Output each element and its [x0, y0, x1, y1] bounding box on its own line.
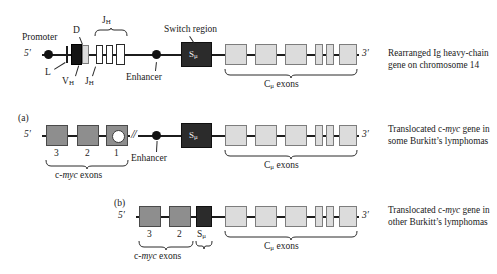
promoter-label: Promoter	[22, 33, 57, 43]
cmyc-exons-label-b: c-myc exons	[134, 252, 181, 262]
cmyc-exon-box-3-b	[139, 206, 161, 227]
smu-brace-b	[195, 241, 213, 249]
caption-a-line2: some Burkitt’s lymphomas	[388, 136, 488, 148]
cmyc-exon-number-3-b: 3	[147, 230, 152, 240]
cmu-exon-box-6-top	[339, 44, 357, 65]
three-prime-label-b: 3′	[362, 211, 369, 221]
d-segment-box	[82, 45, 89, 64]
jh-bottom-label: JH	[85, 77, 94, 87]
cmu-exon-box-1-top	[225, 44, 247, 65]
cmyc-exon-number-2-a: 2	[85, 149, 90, 159]
cmyc-exon-box-3-a	[46, 125, 68, 146]
chromosome-break-symbol-a: //	[131, 127, 136, 142]
cmu-exons-label-b: Cμ exons	[264, 242, 299, 252]
l-segment-label: L	[45, 68, 51, 78]
cmu-exons-label-a: Cμ exons	[264, 161, 299, 171]
caption-b-line1: Translocated c-myc gene in	[388, 205, 490, 217]
caption-b-line2: other Burkitt’s lymphomas	[388, 217, 488, 229]
jh-bottom-leader-line	[92, 66, 96, 76]
enhancer-leader-line-a	[156, 141, 158, 152]
promoter-dot-top	[44, 50, 53, 59]
l-segment-leader-line	[54, 62, 66, 70]
cmu-exon-box-5-top	[326, 44, 334, 65]
cmyc-exons-brace-a	[45, 160, 129, 169]
caption-top-line2: gene on chromosome 14	[388, 60, 479, 72]
five-prime-label-top: 5′	[24, 49, 31, 59]
smu-box-text-top: Sμ	[189, 49, 198, 60]
cmyc-exon-box-2-a	[77, 125, 99, 146]
jh-segment-box-2	[106, 45, 113, 64]
caption-top-line1: Rearranged Ig heavy-chain	[388, 48, 489, 60]
jh-segment-box-1	[96, 45, 103, 64]
enhancer-label-top: Enhancer	[126, 73, 162, 83]
smu-box-text-a: Sμ	[189, 130, 198, 141]
cmyc-exon-1-inner-circle-a	[112, 130, 125, 143]
switch-region-smu-box-b	[196, 206, 212, 227]
cmu-exon-box-6-b	[339, 206, 357, 227]
cmu-exon-box-1-b	[225, 206, 247, 227]
enhancer-label-a: Enhancer	[131, 154, 167, 164]
cmu-exon-box-3-a	[285, 125, 307, 146]
cmu-exons-label-top: Cμ exons	[264, 80, 299, 90]
cmu-exons-brace-top	[224, 69, 358, 78]
enhancer-dot-top	[152, 50, 161, 59]
figure-canvas: 5′ 3′ Sμ JH Promoter	[0, 0, 497, 274]
cmyc-exon-box-2-b	[169, 206, 191, 227]
cmu-exon-box-4-top	[315, 44, 323, 65]
cmu-exon-box-1-a	[225, 125, 247, 146]
cmyc-exon-number-1-a: 1	[114, 149, 119, 159]
vh-segment-box	[71, 44, 82, 65]
vh-segment-leader-line	[75, 65, 79, 76]
cmyc-exon-number-3-a: 3	[54, 149, 59, 159]
cmu-exon-box-2-b	[255, 206, 277, 227]
three-prime-label-top: 3′	[362, 49, 369, 59]
switch-region-label: Switch region	[164, 25, 217, 35]
cmu-exon-box-3-b	[285, 206, 307, 227]
cmu-exon-box-3-top	[285, 44, 307, 65]
jh-segment-box-3	[116, 44, 125, 65]
cmu-exon-box-5-b	[326, 206, 334, 227]
five-prime-label-b: 5′	[118, 211, 125, 221]
smu-label-b: Sμ	[197, 230, 206, 240]
cmu-exon-box-6-a	[339, 125, 357, 146]
cmu-exons-brace-a	[224, 150, 358, 159]
cmyc-exon-box-1-a	[106, 125, 128, 146]
enhancer-dot-a	[152, 131, 161, 140]
cmu-exon-box-4-a	[315, 125, 323, 146]
cmyc-exons-label-a: c-myc exons	[55, 171, 102, 181]
cmu-exon-box-5-a	[326, 125, 334, 146]
vh-segment-label: VH	[62, 77, 74, 87]
jh-label-top: JH	[102, 16, 111, 26]
jh-brace-top	[94, 28, 128, 36]
switch-region-smu-box-a: Sμ	[181, 123, 212, 148]
cmyc-exons-brace-b	[138, 241, 194, 250]
cmu-exon-box-2-top	[255, 44, 277, 65]
panel-label-a: (a)	[18, 113, 29, 123]
cmu-exon-box-4-b	[315, 206, 323, 227]
l-segment-tick-top	[66, 46, 68, 63]
cmyc-exon-number-2-b: 2	[177, 230, 182, 240]
panel-label-b: (b)	[114, 198, 125, 208]
three-prime-label-a: 3′	[362, 130, 369, 140]
cmu-exons-brace-b	[224, 231, 358, 240]
cmu-exon-box-2-a	[255, 125, 277, 146]
d-segment-label: D	[73, 26, 80, 36]
enhancer-leader-line-top	[155, 62, 157, 71]
caption-a-line1: Translocated c-myc gene in	[388, 124, 490, 136]
five-prime-label-a: 5′	[24, 130, 31, 140]
